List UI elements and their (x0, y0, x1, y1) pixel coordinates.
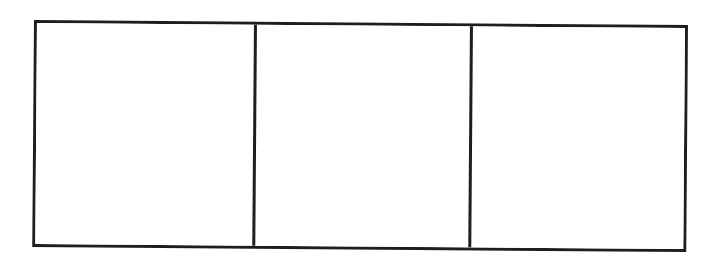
panel-1 (35, 23, 254, 246)
panel-2 (252, 25, 470, 248)
three-panel-strip (32, 20, 688, 252)
panel-3 (468, 26, 685, 249)
